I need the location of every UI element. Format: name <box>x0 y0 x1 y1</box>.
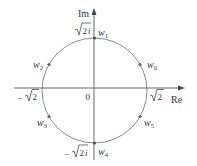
svg-text:−: − <box>64 149 69 159</box>
origin-label: 0 <box>86 92 91 102</box>
point-w2 <box>47 63 50 66</box>
point-w1 <box>93 36 96 39</box>
label-w2: w2 <box>33 59 43 71</box>
label-w1: w1 <box>98 27 108 39</box>
svg-text:2: 2 <box>158 92 163 102</box>
svg-text:2: 2 <box>33 92 38 102</box>
svg-text:2: 2 <box>80 148 85 158</box>
point-w5 <box>138 115 141 118</box>
label-w5: w5 <box>144 117 154 129</box>
tick-bottom-neg-sqrt2i: − 2 i <box>64 145 88 159</box>
imag-axis-arrow-icon <box>92 8 97 15</box>
label-w4: w4 <box>98 146 109 158</box>
svg-text:2: 2 <box>83 26 88 36</box>
label-w0: w0 <box>147 59 157 71</box>
point-w3 <box>47 115 50 118</box>
label-w3: w3 <box>37 117 47 129</box>
real-axis-label: Re <box>171 94 183 105</box>
tick-left-neg-sqrt2: − 2 <box>17 90 39 104</box>
tick-top-sqrt2i: 2 i <box>75 23 91 36</box>
svg-text:i: i <box>85 148 88 158</box>
svg-text:−: − <box>17 93 22 103</box>
complex-plane-diagram: Im Re 0 2 i − 2 i − 2 2 w0 w1 w2 w3 w4 w… <box>0 0 197 166</box>
tick-right-sqrt2: 2 <box>150 90 164 103</box>
imag-axis-label: Im <box>78 8 89 19</box>
real-axis-arrow-icon <box>178 86 185 91</box>
point-w4 <box>93 141 96 144</box>
root-circle <box>42 38 147 143</box>
svg-text:i: i <box>88 26 91 36</box>
point-w0 <box>138 63 141 66</box>
